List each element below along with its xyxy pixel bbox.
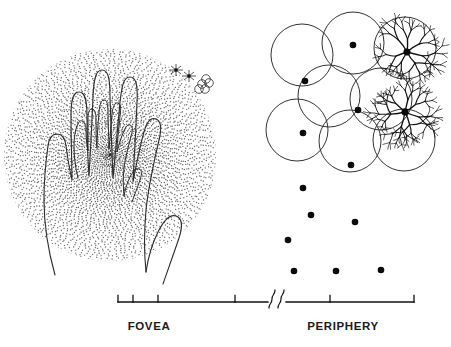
peripheral-cone-dot	[285, 237, 292, 244]
retina-fovea-periphery-figure: 0°0.1°1°5°60°61°	[0, 0, 451, 347]
peripheral-cone-dot	[291, 268, 298, 275]
dendrite-branch	[397, 67, 398, 72]
ganglion-cell-soma	[402, 109, 409, 116]
peripheral-cone-dot	[378, 267, 385, 274]
receptive-field-center-dot	[350, 42, 357, 49]
receptive-field-center-dot	[300, 185, 307, 192]
receptive-field-center-dot	[355, 107, 362, 114]
ganglion-cell-soma	[404, 49, 411, 56]
peripheral-cone-dot	[333, 268, 340, 275]
periphery-label: PERIPHERY	[288, 320, 398, 332]
receptive-field-center-dot	[302, 78, 309, 85]
receptive-field-center-dot	[300, 130, 307, 137]
fovea-label: FOVEA	[104, 320, 194, 332]
peripheral-cone-dot	[352, 219, 359, 226]
dendrite-branch	[415, 63, 425, 64]
receptive-field-center-dot	[348, 162, 355, 169]
peripheral-cone-dot	[308, 212, 315, 219]
